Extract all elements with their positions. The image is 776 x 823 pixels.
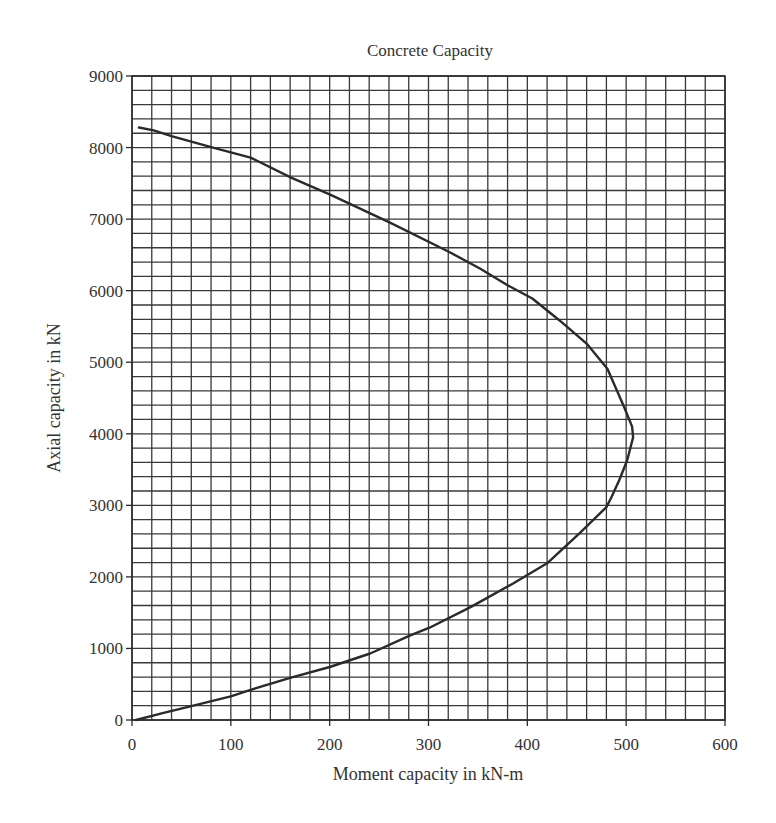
grid-lines bbox=[132, 76, 725, 720]
y-tick-label: 9000 bbox=[89, 67, 123, 86]
y-tick-label: 0 bbox=[115, 711, 124, 730]
y-tick-label: 6000 bbox=[89, 282, 123, 301]
y-axis-ticks: 0100020003000400050006000700080009000 bbox=[89, 67, 132, 730]
y-tick-label: 7000 bbox=[89, 210, 123, 229]
y-tick-label: 4000 bbox=[89, 425, 123, 444]
x-tick-label: 300 bbox=[416, 735, 442, 754]
x-axis-ticks: 0100200300400500600 bbox=[128, 720, 738, 754]
y-axis-label: Axial capacity in kN bbox=[44, 323, 64, 472]
x-tick-label: 100 bbox=[218, 735, 244, 754]
x-tick-label: 200 bbox=[317, 735, 343, 754]
x-tick-label: 500 bbox=[613, 735, 639, 754]
y-tick-label: 3000 bbox=[89, 496, 123, 515]
concrete-capacity-chart: Concrete Capacity 0100200300400500600 01… bbox=[0, 0, 776, 823]
y-tick-label: 5000 bbox=[89, 353, 123, 372]
x-tick-label: 400 bbox=[515, 735, 541, 754]
y-tick-label: 2000 bbox=[89, 568, 123, 587]
y-tick-label: 8000 bbox=[89, 139, 123, 158]
chart-title: Concrete Capacity bbox=[367, 41, 494, 60]
y-tick-label: 1000 bbox=[89, 639, 123, 658]
x-tick-label: 600 bbox=[712, 735, 738, 754]
x-tick-label: 0 bbox=[128, 735, 137, 754]
x-axis-label: Moment capacity in kN-m bbox=[333, 764, 523, 784]
